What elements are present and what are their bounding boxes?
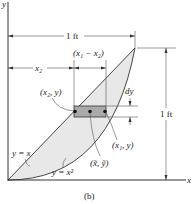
dy-label: dy	[125, 86, 134, 96]
x2-label: x₂	[34, 63, 42, 73]
top-width-label: 1 ft	[66, 31, 79, 41]
point-left	[73, 110, 77, 114]
curve-label-quadratic: y = x²	[51, 167, 74, 177]
centroid-label: (x̃, ỹ)	[90, 158, 108, 168]
point-centroid	[88, 110, 92, 114]
left-point-label: (x₂, y)	[40, 87, 62, 97]
right-height-label: 1 ft	[160, 109, 173, 119]
figure-caption: (b)	[84, 191, 95, 201]
curve-label-linear: y = x	[11, 148, 31, 158]
area-element-diagram: 1 ft x₂ (x₁ − x₂) dy (x₂, y) (x₁, y) (x̃…	[0, 0, 195, 204]
x-axis-label: x	[186, 175, 191, 185]
difference-label: (x₁ − x₂)	[73, 48, 104, 58]
right-point-label: (x₁, y)	[112, 140, 134, 150]
y-axis-label: y	[1, 0, 6, 9]
